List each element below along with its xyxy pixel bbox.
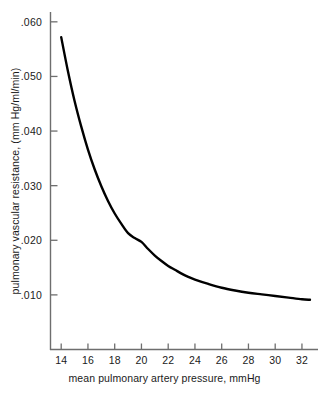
y-axis-title: pulmonary vascular resistance, (mm Hg/ml… (9, 16, 21, 346)
x-tick-label: 14 (46, 354, 76, 366)
x-axis-title: mean pulmonary artery pressure, mmHg (0, 372, 329, 384)
y-tick-marks (51, 22, 58, 295)
y-tick-label: .020 (2, 234, 42, 246)
x-tick-label: 20 (126, 354, 156, 366)
y-tick-label: .030 (2, 180, 42, 192)
x-tick-label: 18 (100, 354, 130, 366)
y-tick-label: .040 (2, 125, 42, 137)
data-series-line (61, 37, 310, 300)
plot-canvas (0, 0, 329, 394)
y-tick-label: .010 (2, 289, 42, 301)
x-tick-label: 26 (207, 354, 237, 366)
chart-figure: .010.020.030.040.050.060 141618202224262… (0, 0, 329, 394)
x-tick-label: 24 (180, 354, 210, 366)
y-tick-label: .060 (2, 16, 42, 28)
x-tick-label: 30 (260, 354, 290, 366)
x-tick-label: 28 (233, 354, 263, 366)
x-tick-marks (61, 344, 302, 350)
x-tick-label: 16 (73, 354, 103, 366)
y-tick-label: .050 (2, 70, 42, 82)
x-tick-label: 22 (153, 354, 183, 366)
x-tick-label: 32 (287, 354, 317, 366)
axis-lines (50, 12, 318, 350)
